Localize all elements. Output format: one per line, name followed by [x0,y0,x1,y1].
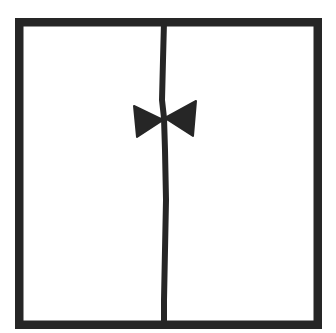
bow-tie-knot [161,116,168,123]
square-frame [19,22,318,325]
bow-tie-right-wing [165,101,196,136]
drawing-canvas [0,0,336,333]
vertical-center-line [162,22,166,325]
bow-tie-left-wing [134,106,163,137]
